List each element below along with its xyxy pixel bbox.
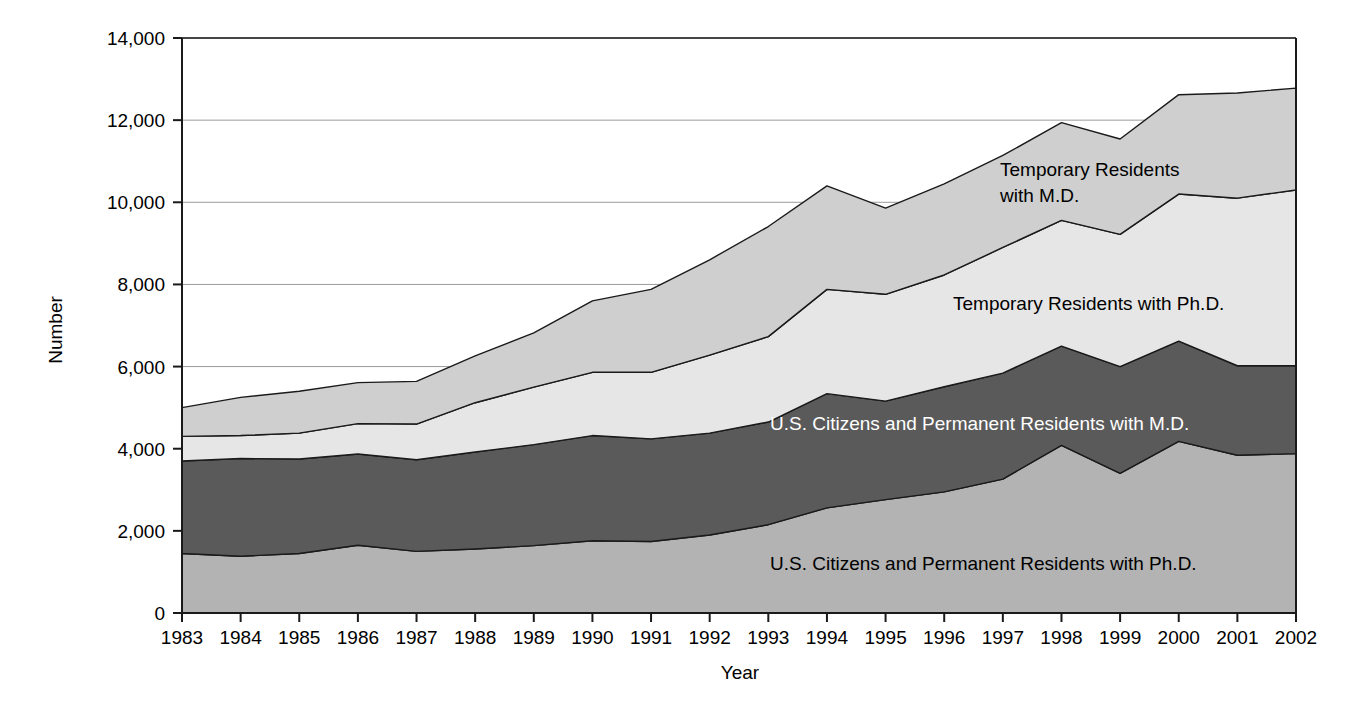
- y-tick-label: 8,000: [117, 274, 165, 295]
- series-label-1: Temporary Residents with Ph.D.: [953, 293, 1224, 314]
- x-tick-label: 2001: [1216, 627, 1258, 648]
- x-tick-label: 1996: [923, 627, 965, 648]
- y-tick-label: 6,000: [117, 357, 165, 378]
- series-label-2: U.S. Citizens and Permanent Residents wi…: [770, 413, 1189, 434]
- x-tick-label: 2000: [1158, 627, 1200, 648]
- x-tick-label: 1991: [630, 627, 672, 648]
- x-tick-label: 1992: [689, 627, 731, 648]
- y-tick-label: 14,000: [107, 28, 165, 49]
- x-tick-label: 1999: [1099, 627, 1141, 648]
- x-tick-label: 1994: [806, 627, 849, 648]
- x-tick-label: 1998: [1040, 627, 1082, 648]
- x-tick-label: 1997: [982, 627, 1024, 648]
- x-tick-label: 1995: [864, 627, 906, 648]
- y-tick-label: 2,000: [117, 521, 165, 542]
- y-tick-label: 12,000: [107, 110, 165, 131]
- x-tick-label: 1985: [278, 627, 320, 648]
- x-axis-title: Year: [721, 662, 760, 683]
- x-tick-label: 1984: [219, 627, 262, 648]
- x-tick-label: 1990: [571, 627, 613, 648]
- x-axis-tick-labels: 1983198419851986198719881989199019911992…: [161, 627, 1317, 648]
- chart-canvas: 02,0004,0006,0008,00010,00012,00014,000 …: [0, 0, 1361, 710]
- y-tick-label: 0: [154, 603, 165, 624]
- stacked-area-chart: 02,0004,0006,0008,00010,00012,00014,000 …: [0, 0, 1361, 710]
- x-tick-label: 1993: [747, 627, 789, 648]
- y-axis-title: Number: [45, 296, 66, 364]
- y-axis-tick-labels: 02,0004,0006,0008,00010,00012,00014,000: [107, 28, 165, 624]
- x-tick-label: 1987: [395, 627, 437, 648]
- x-tick-label: 2002: [1275, 627, 1317, 648]
- series-label-3: U.S. Citizens and Permanent Residents wi…: [770, 553, 1197, 574]
- y-tick-label: 4,000: [117, 439, 165, 460]
- y-tick-label: 10,000: [107, 192, 165, 213]
- x-tick-label: 1986: [337, 627, 379, 648]
- x-tick-label: 1988: [454, 627, 496, 648]
- x-tick-label: 1989: [513, 627, 555, 648]
- x-tick-label: 1983: [161, 627, 203, 648]
